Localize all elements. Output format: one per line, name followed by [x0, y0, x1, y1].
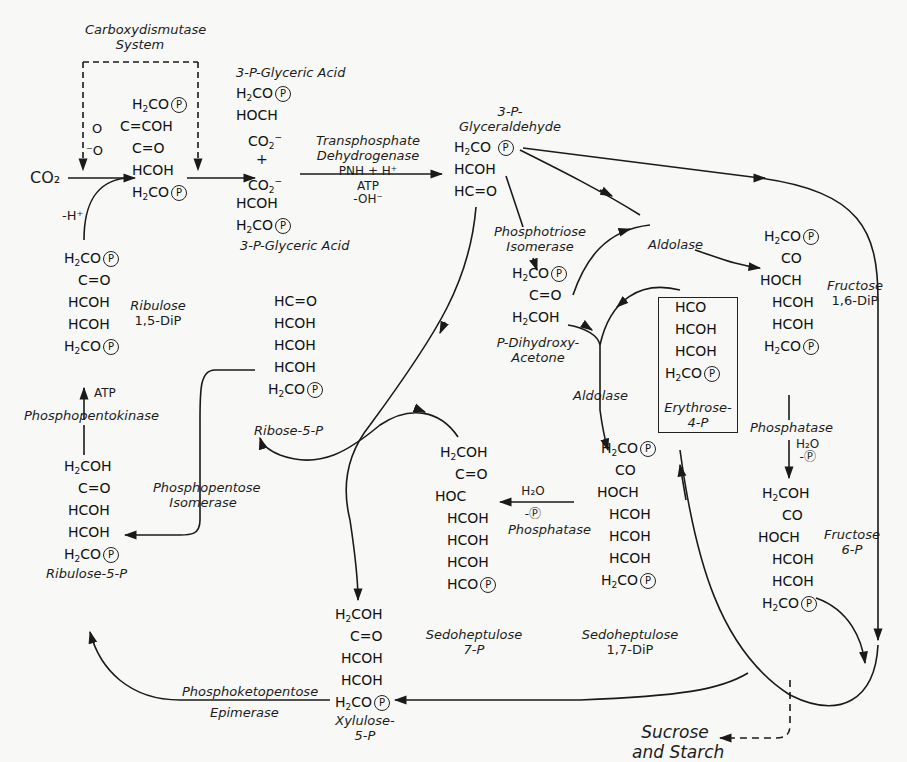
row: HCOH — [120, 159, 187, 181]
row: HCOH — [268, 312, 323, 334]
enzyme-name: Transphosphate — [303, 133, 433, 148]
phosphate-circle-icon: P — [551, 266, 567, 282]
transphosphate-dehydrogenase-label: Transphosphate Dehydrogenase — [303, 133, 433, 163]
row: C=COH — [120, 115, 187, 137]
compound-fructose-16-dip: H2COP CO HOCH HCOH HCOH H2COP — [764, 225, 819, 357]
row: HOC — [435, 485, 496, 507]
phosphate-circle-icon: P — [640, 441, 656, 457]
co2-label: CO₂ — [30, 168, 60, 187]
row: HCOH — [597, 547, 656, 569]
erythrose-name: Erythrose- 4-P — [655, 400, 741, 430]
compound-intermediate: H2COP C=COH C=O HCOH H2COP — [120, 93, 187, 203]
compound-glyceraldehyde: H2CO P HCOH HC=O — [454, 136, 514, 202]
enzyme-name: Carboxydismutase — [85, 22, 195, 37]
row: C=O — [64, 477, 119, 499]
row: HCOH — [597, 525, 656, 547]
row: H2COH — [64, 455, 119, 477]
row: HCOH — [762, 548, 817, 570]
pga-top-name: 3-P-Glyceric Acid — [236, 65, 345, 80]
sedoheptulose-17-dip-name: Sedoheptulose 1,7-DiP — [580, 627, 680, 657]
phosphatase-2-phosphate: -Ⓟ — [518, 507, 548, 522]
name-line2: 5-P — [330, 728, 400, 743]
cofactor-phosphate: -Ⓟ — [796, 451, 819, 464]
row: HCOH — [764, 313, 819, 335]
phosphate-circle-icon: P — [803, 229, 819, 245]
row: HC=O — [268, 290, 323, 312]
row: HOCH — [597, 481, 656, 503]
name-line1: Xylulose- — [330, 713, 400, 728]
starch-text: and Starch — [632, 742, 718, 762]
phosphate-circle-icon: P — [275, 218, 291, 234]
row: HCOH — [335, 647, 390, 669]
phosphatase-label-1: Phosphatase — [750, 420, 833, 435]
carboxyl-group: O⁻O — [92, 118, 103, 162]
phosphate-circle-icon: P — [103, 547, 119, 563]
cofactor-oh: -OH⁻ — [303, 193, 433, 206]
row: H2COP — [236, 214, 291, 236]
row: HCOH — [435, 507, 496, 529]
phosphopentokinase-atp: ATP — [94, 386, 116, 401]
enzyme-name: Phosphotriose — [490, 224, 590, 239]
fructose-16-dip-name: Fructose 1,6-DiP — [820, 278, 890, 308]
phosphate-circle-icon: P — [171, 185, 187, 201]
name-line1: Sedoheptulose — [424, 627, 524, 642]
phosphate-circle-icon: P — [803, 339, 819, 355]
row: CO2− — [236, 170, 291, 192]
compound-ribose-5p: HC=O HCOH HCOH HCOH H2COP — [268, 290, 323, 400]
name-line1: Sedoheptulose — [580, 627, 680, 642]
name-line1: 3-P- — [455, 104, 565, 119]
compound-erythrose: HCO HCOH HCOH H2COP — [665, 296, 720, 384]
enzyme-name-line2: Isomerase — [490, 239, 590, 254]
row: HCOH — [454, 158, 514, 180]
row: HCOH — [665, 318, 720, 340]
row: H2COH — [512, 306, 567, 328]
row: H2CO P — [454, 136, 514, 158]
compound-dihydroxyacetone: H2COP C=O H2COH — [512, 262, 567, 328]
row: H2COP — [120, 93, 187, 115]
row: HCOH — [268, 334, 323, 356]
phosphate-circle-icon: P — [498, 140, 514, 156]
compound-ribulose-15-dip: H2COP C=O HCOH HCOH H2COP — [64, 247, 119, 357]
pga-bottom-name: 3-P-Glyceric Acid — [240, 238, 349, 253]
compound-sedoheptulose-17-dip: H2COP CO HOCH HCOH HCOH HCOH H2COP — [597, 437, 656, 591]
row: HCOH — [64, 521, 119, 543]
name-line2: Acetone — [483, 350, 593, 365]
row: HCOP — [435, 573, 496, 595]
name-line1: Fructose — [820, 278, 890, 293]
name-line1: P-Dihydroxy- — [483, 335, 593, 350]
name-line1: Erythrose- — [655, 400, 741, 415]
glyceraldehyde-name: 3-P- Glyceraldehyde — [455, 104, 565, 134]
phosphate-circle-icon: P — [307, 382, 323, 398]
sedoheptulose-7p-name: Sedoheptulose 7-P — [424, 627, 524, 657]
row: HCOH — [64, 313, 119, 335]
phosphatase-label-2: Phosphatase — [508, 522, 591, 537]
cofactor-water: H₂O — [518, 485, 548, 498]
row: HCOH — [64, 499, 119, 521]
row: CO — [597, 459, 656, 481]
row: HCOH — [268, 356, 323, 378]
phosphate-circle-icon: P — [275, 86, 291, 102]
phosphate-circle-icon: P — [480, 577, 496, 593]
row: HC=O — [454, 180, 514, 202]
row: H2COP — [268, 378, 323, 400]
name-line1: Fructose — [822, 527, 882, 542]
row: H2COP — [64, 335, 119, 357]
phosphopentose-isomerase-label: Phosphopentose Isomerase — [153, 480, 253, 510]
name-line2: 6-P — [822, 542, 882, 557]
row: C=O — [120, 137, 187, 159]
row: C=O — [64, 269, 119, 291]
row: H2COP — [120, 181, 187, 203]
enzyme-name: Phosphopentose — [153, 480, 253, 495]
row: HCOH — [597, 503, 656, 525]
row: HCOH — [665, 340, 720, 362]
transphosphate-cofactor: PNH + H⁺ — [303, 164, 433, 179]
row: H2COH — [335, 603, 390, 625]
sucrose-text: Sucrose — [632, 722, 718, 742]
row: HCO — [665, 296, 720, 318]
row: HCOH — [435, 551, 496, 573]
phosphoketopentose-epimerase-label: Phosphoketopentose — [182, 684, 318, 699]
row: C=O — [435, 463, 496, 485]
phosphotriose-isomerase-label: Phosphotriose Isomerase — [490, 224, 590, 254]
phosphate-circle-icon: P — [801, 596, 817, 612]
row: H2COP — [764, 335, 819, 357]
